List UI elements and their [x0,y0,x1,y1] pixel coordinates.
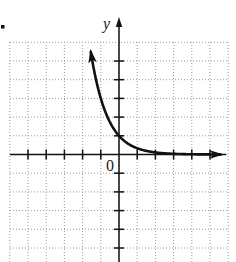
origin-label: 0 [106,157,114,174]
y-axis-label: y [101,15,111,33]
exponential-graph: y 0 [0,0,236,262]
y-axis-arrow-icon [116,17,122,27]
function-curve [91,52,221,155]
problem-bullet [1,25,5,29]
curve-arrow-icon [88,49,223,159]
axes [10,17,226,262]
